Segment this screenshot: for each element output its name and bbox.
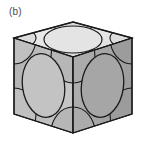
top-face-center-atom — [44, 26, 102, 53]
unit-cell-drawing — [0, 0, 144, 144]
fcc-unit-cell-figure: (b) — [0, 0, 144, 144]
panel-label: (b) — [9, 6, 22, 18]
